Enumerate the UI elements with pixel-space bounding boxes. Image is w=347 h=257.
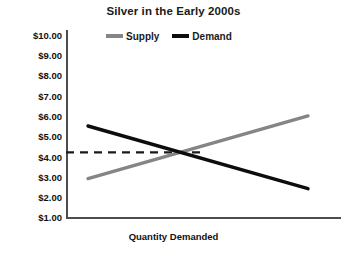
supply-curve-line xyxy=(88,116,308,179)
chart-container: Silver in the Early 2000s Supply Demand … xyxy=(0,0,347,257)
x-axis-title: Quantity Demanded xyxy=(0,231,347,242)
chart-plot-lines xyxy=(0,0,347,257)
demand-curve-line xyxy=(88,126,308,189)
